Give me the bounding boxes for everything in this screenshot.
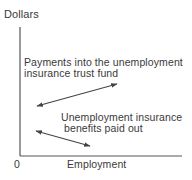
benefits-label: Unemployment insurance benefits paid out [61, 112, 182, 134]
payments-arrow [37, 84, 117, 106]
payments-label: Payments into the unemployment insurance… [24, 57, 183, 79]
benefits-label-line2: benefits paid out [61, 123, 182, 134]
payments-label-line2: insurance trust fund [24, 68, 183, 79]
x-axis-title: Employment [67, 159, 126, 170]
diagram-canvas [0, 0, 192, 180]
origin-label: 0 [14, 159, 20, 170]
y-axis-title: Dollars [4, 9, 39, 20]
